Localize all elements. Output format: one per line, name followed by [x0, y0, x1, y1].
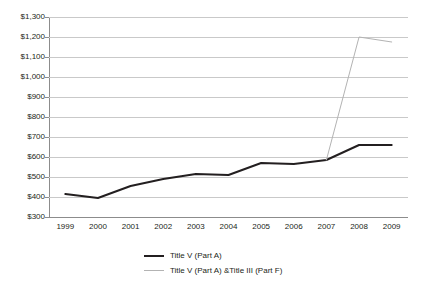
x-axis-labels: 1999200020012002200320042005200620072008…: [49, 222, 408, 236]
x-axis-tick-label: 1999: [56, 222, 74, 231]
line-chart: $1,300$1,200$1,100$1,000$900$800$700$600…: [0, 0, 423, 288]
y-axis-tick-label: $300: [1, 213, 45, 221]
y-axis-tick-label: $1,200: [1, 33, 45, 41]
y-axis-tick-label: $400: [1, 193, 45, 201]
y-axis-tick-label: $1,000: [1, 73, 45, 81]
y-axis-tick-label: $1,100: [1, 53, 45, 61]
y-axis-labels: $1,300$1,200$1,100$1,000$900$800$700$600…: [0, 0, 45, 288]
x-axis-tick-label: 2007: [318, 222, 336, 231]
legend-item[interactable]: Title V (Part A) &Title III (Part F): [0, 263, 423, 278]
gridline: [49, 217, 408, 218]
x-axis-tick-label: 2009: [383, 222, 401, 231]
y-axis-tick-label: $500: [1, 173, 45, 181]
y-axis-tick-label: $600: [1, 153, 45, 161]
x-axis-tick-label: 2002: [154, 222, 172, 231]
x-axis-tick-label: 2004: [220, 222, 238, 231]
y-axis-tick-label: $900: [1, 93, 45, 101]
series-line: [326, 37, 391, 160]
x-axis-tick-label: 2001: [122, 222, 140, 231]
x-axis-tick-label: 2000: [89, 222, 107, 231]
legend-label: Title V (Part A) &Title III (Part F): [170, 266, 282, 275]
y-axis-tick-label: $1,300: [1, 13, 45, 21]
legend-label: Title V (Part A): [170, 251, 222, 260]
y-axis-tick-label: $800: [1, 113, 45, 121]
legend-swatch-icon: [144, 270, 164, 271]
series-line: [65, 145, 391, 198]
series-layer: [49, 17, 408, 217]
y-axis-tick-label: $700: [1, 133, 45, 141]
x-axis-tick-label: 2005: [252, 222, 270, 231]
x-axis-tick-label: 2003: [187, 222, 205, 231]
legend-swatch-icon: [144, 255, 164, 257]
x-axis-tick-label: 2008: [350, 222, 368, 231]
x-axis-tick-label: 2006: [285, 222, 303, 231]
chart-legend: Title V (Part A)Title V (Part A) &Title …: [0, 248, 423, 278]
plot-area: [49, 17, 408, 217]
legend-item[interactable]: Title V (Part A): [0, 248, 423, 263]
